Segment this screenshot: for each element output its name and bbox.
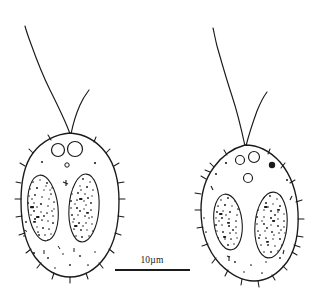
- small-granule: [225, 162, 227, 164]
- contractile-vacuole: [236, 156, 245, 165]
- eyespot: [269, 162, 275, 168]
- contractile-vacuole: [52, 144, 65, 157]
- scale-bar-label: 10µm: [140, 255, 164, 265]
- small-granule: [286, 179, 288, 181]
- small-granule: [215, 173, 217, 175]
- small-granule: [65, 163, 69, 167]
- contractile-vacuole: [249, 152, 260, 163]
- illustration-canvas: 10µm: [0, 0, 318, 298]
- contractile-vacuole: [244, 174, 253, 183]
- figure-container: 10µm: [0, 0, 318, 298]
- small-granule: [41, 161, 43, 163]
- contractile-vacuole: [68, 142, 83, 157]
- small-granule: [94, 162, 96, 164]
